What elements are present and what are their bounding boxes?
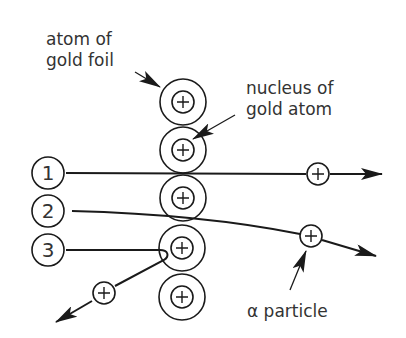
gold-atom-column [159,79,206,320]
path-1-number: 1 [42,161,55,185]
path-2-number: 2 [42,199,55,223]
nucleus-label-line2: gold atom [246,99,334,120]
gold-atom-4 [159,225,205,271]
atom-label-line2: gold foil [46,50,114,71]
nucleus-label: nucleus of gold atom [246,78,334,120]
gold-atom-1 [160,79,206,125]
atom-label-line1: atom of [46,29,114,50]
path-3-number: 3 [42,238,55,262]
gold-atom-5 [159,274,205,320]
alpha-path-1 [66,163,382,185]
atom-pointer-arrow [135,72,160,87]
atom-label: atom of gold foil [46,29,114,71]
gold-atom-2 [160,127,206,173]
alpha-path-3 [56,250,167,322]
alpha-pointer-arrow [290,251,306,290]
nucleus-label-line1: nucleus of [246,78,334,99]
gold-atom-3 [160,175,206,221]
alpha-particle-label: α particle [247,301,328,322]
